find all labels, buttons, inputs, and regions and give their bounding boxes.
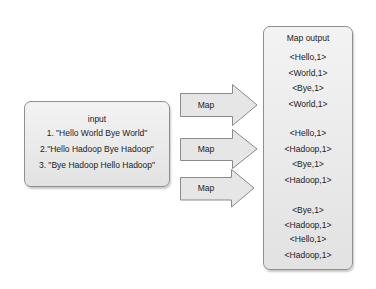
output-pair: <Bye,1> (264, 83, 352, 93)
output-pair: <Hadoop,1> (264, 144, 352, 154)
input-box: input 1. "Hello World Bye World" 2."Hell… (24, 101, 170, 187)
input-line-3: 3. "Bye Hadoop Hello Hadoop" (25, 160, 169, 170)
output-pair: <Hello,1> (264, 128, 352, 138)
map-arrow-label: Map (180, 144, 232, 154)
map-arrow-label: Map (180, 100, 232, 110)
output-pair: <Bye,1> (264, 205, 352, 215)
map-output-box: Map output <Hello,1> <World,1> <Bye,1> <… (263, 26, 353, 270)
output-pair: <Bye,1> (264, 159, 352, 169)
output-pair: <Hello,1> (264, 52, 352, 62)
output-pair: <Hadoop,1> (264, 220, 352, 230)
output-pair: <World,1> (264, 68, 352, 78)
input-title: input (25, 114, 169, 124)
output-pair: <Hadoop,1> (264, 175, 352, 185)
map-arrow-1: Map (180, 84, 258, 126)
input-line-2: 2."Hello Hadoop Bye Hadoop" (25, 144, 169, 154)
output-title: Map output (264, 33, 352, 43)
output-pair: <Hello,1> (264, 234, 352, 244)
map-arrow-3: Map (180, 169, 258, 211)
map-arrow-2: Map (180, 129, 258, 171)
output-pair: <Hadoop,1> (264, 250, 352, 260)
map-arrow-label: Map (180, 183, 232, 193)
output-pair: <World,1> (264, 99, 352, 109)
input-line-1: 1. "Hello World Bye World" (25, 128, 169, 138)
